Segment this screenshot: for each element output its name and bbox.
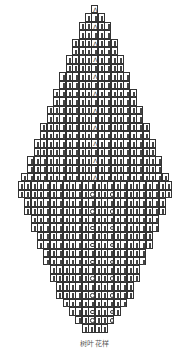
knit-stitch-icon bbox=[95, 83, 97, 88]
chart-cell-knit bbox=[152, 223, 159, 231]
knit-stitch-icon bbox=[60, 209, 62, 214]
knit-stitch-icon bbox=[75, 58, 77, 63]
knit-stitch-icon bbox=[104, 276, 106, 281]
chart-row bbox=[59, 81, 129, 89]
knit-stitch-icon bbox=[111, 268, 113, 273]
knit-stitch-icon bbox=[69, 150, 71, 155]
knit-stitch-icon bbox=[146, 134, 148, 139]
knit-stitch-icon bbox=[63, 159, 65, 164]
knit-stitch-icon bbox=[130, 251, 132, 256]
knit-stitch-icon bbox=[143, 234, 145, 239]
chart-row bbox=[63, 299, 127, 307]
chart-cell-knit bbox=[104, 30, 111, 38]
chart-row: Λ bbox=[47, 106, 143, 114]
knit-stitch-icon bbox=[66, 192, 68, 197]
knit-stitch-icon bbox=[88, 58, 90, 63]
knit-stitch-icon bbox=[27, 209, 29, 214]
knit-stitch-icon bbox=[114, 50, 116, 55]
knit-stitch-icon bbox=[162, 184, 164, 189]
knit-stitch-icon bbox=[40, 234, 42, 239]
chart-row: Λ bbox=[66, 55, 124, 63]
knit-stitch-icon bbox=[92, 184, 94, 189]
knit-stitch-icon bbox=[88, 24, 90, 29]
knit-stitch-icon bbox=[101, 41, 103, 46]
knit-stitch-icon bbox=[108, 142, 110, 147]
knit-stitch-icon bbox=[37, 159, 39, 164]
knit-stitch-icon bbox=[69, 108, 71, 113]
chart-row bbox=[43, 257, 146, 265]
knit-stitch-icon bbox=[133, 92, 135, 97]
knit-stitch-icon bbox=[37, 150, 39, 155]
knit-stitch-icon bbox=[95, 117, 97, 122]
knit-stitch-icon bbox=[60, 192, 62, 197]
knit-stitch-icon bbox=[21, 192, 23, 197]
knit-stitch-icon bbox=[75, 66, 77, 71]
knit-stitch-icon bbox=[92, 302, 94, 307]
knit-stitch-icon bbox=[75, 50, 77, 55]
knit-stitch-icon bbox=[53, 251, 55, 256]
knit-stitch-icon bbox=[27, 201, 29, 206]
knit-stitch-icon bbox=[31, 176, 33, 181]
knit-stitch-icon bbox=[40, 209, 42, 214]
knit-stitch-icon bbox=[127, 176, 129, 181]
knit-stitch-icon bbox=[53, 276, 55, 281]
knit-stitch-icon bbox=[162, 209, 164, 214]
knit-stitch-icon bbox=[72, 276, 74, 281]
knit-stitch-icon bbox=[47, 260, 49, 265]
knit-stitch-icon bbox=[76, 167, 78, 172]
knit-stitch-icon bbox=[114, 134, 116, 139]
knit-stitch-icon bbox=[124, 302, 126, 307]
knit-stitch-icon bbox=[120, 117, 122, 122]
knit-stitch-icon bbox=[27, 184, 29, 189]
chart-cell-knit bbox=[143, 131, 150, 139]
knit-stitch-icon bbox=[143, 243, 145, 248]
chart-cell-knit bbox=[159, 198, 166, 206]
knit-stitch-icon bbox=[92, 268, 94, 273]
knit-stitch-icon bbox=[127, 100, 129, 105]
knit-stitch-icon bbox=[60, 260, 62, 265]
decrease-icon: Λ bbox=[93, 7, 97, 13]
knit-stitch-icon bbox=[114, 150, 116, 155]
knit-stitch-icon bbox=[162, 192, 164, 197]
knit-stitch-icon bbox=[76, 108, 78, 113]
knit-stitch-icon bbox=[146, 142, 148, 147]
knit-stitch-icon bbox=[47, 201, 49, 206]
chart-row bbox=[24, 198, 165, 206]
knit-stitch-icon bbox=[72, 268, 74, 273]
knit-stitch-icon bbox=[53, 226, 55, 231]
knit-stitch-icon bbox=[69, 142, 71, 147]
knit-stitch-icon bbox=[140, 176, 142, 181]
knit-stitch-icon bbox=[143, 251, 145, 256]
knit-stitch-icon bbox=[95, 16, 97, 21]
knit-stitch-icon bbox=[143, 218, 145, 223]
knit-stitch-icon bbox=[69, 176, 71, 181]
chart-cell-knit bbox=[133, 274, 140, 282]
knit-stitch-icon bbox=[66, 209, 68, 214]
knit-stitch-icon bbox=[88, 33, 90, 38]
knit-stitch-icon bbox=[136, 184, 138, 189]
chart-row bbox=[56, 291, 133, 299]
knit-stitch-icon bbox=[156, 192, 158, 197]
knit-stitch-icon bbox=[117, 260, 119, 265]
knit-stitch-icon bbox=[76, 142, 78, 147]
knit-stitch-icon bbox=[127, 108, 129, 113]
knit-stitch-icon bbox=[120, 108, 122, 113]
knit-stitch-icon bbox=[76, 92, 78, 97]
chart-cell-knit bbox=[155, 156, 162, 164]
knit-stitch-icon bbox=[133, 167, 135, 172]
knit-stitch-icon bbox=[101, 117, 103, 122]
knit-stitch-icon bbox=[44, 176, 46, 181]
chart-row bbox=[69, 307, 120, 315]
knit-stitch-icon bbox=[152, 142, 154, 147]
knit-stitch-icon bbox=[88, 75, 90, 80]
knit-stitch-icon bbox=[88, 16, 90, 21]
chart-row: Λ bbox=[79, 22, 111, 30]
knit-stitch-icon bbox=[120, 176, 122, 181]
knit-stitch-icon bbox=[98, 251, 100, 256]
knit-stitch-icon bbox=[114, 142, 116, 147]
knit-stitch-icon bbox=[98, 209, 100, 214]
knit-stitch-icon bbox=[101, 167, 103, 172]
knit-stitch-icon bbox=[85, 234, 87, 239]
knit-stitch-icon bbox=[34, 218, 36, 223]
knit-stitch-icon bbox=[101, 159, 103, 164]
